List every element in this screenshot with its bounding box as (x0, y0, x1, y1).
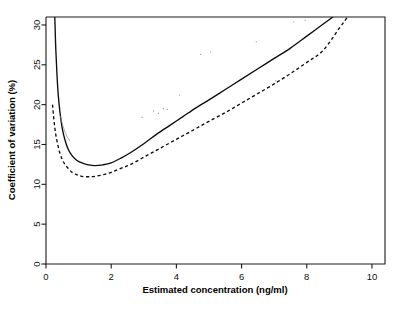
scan-speck (256, 41, 257, 42)
scan-speck (179, 94, 180, 95)
scan-speck (210, 51, 211, 52)
x-axis-title: Estimated concentration (ng/ml) (142, 284, 287, 295)
x-tick-label: 6 (239, 271, 244, 282)
scan-speck (167, 109, 168, 110)
scan-speck (304, 20, 305, 21)
scan-speck (200, 54, 201, 55)
x-tick-label: 10 (367, 271, 378, 282)
y-tick-label: 20 (31, 99, 42, 110)
y-tick-label: 10 (31, 179, 42, 190)
coefficient-of-variation-chart: 0246810 051015202530 Estimated concentra… (0, 0, 407, 309)
x-tick-label: 2 (109, 271, 114, 282)
y-tick-label: 0 (31, 261, 42, 266)
x-tick-label: 8 (304, 271, 309, 282)
y-axis-title: Coefficient of variation (%) (6, 80, 17, 200)
x-tick-label: 0 (43, 271, 48, 282)
scan-speck (142, 117, 143, 118)
scan-speck (163, 108, 164, 109)
chart-background (0, 0, 407, 309)
x-tick-label: 4 (174, 271, 179, 282)
scan-speck (153, 110, 154, 111)
figure-page: 0246810 051015202530 Estimated concentra… (0, 0, 407, 309)
y-tick-label: 30 (31, 20, 42, 31)
scan-speck (158, 113, 159, 114)
y-tick-label: 25 (31, 60, 42, 71)
y-tick-label: 5 (31, 222, 42, 227)
y-tick-label: 15 (31, 139, 42, 150)
scan-speck (275, 80, 276, 81)
scan-speck (293, 21, 294, 22)
